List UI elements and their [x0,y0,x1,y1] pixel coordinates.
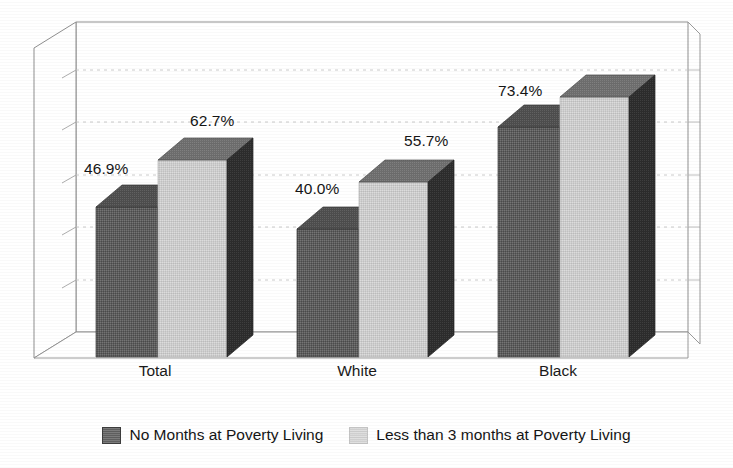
bar-side [428,160,454,357]
legend-label-no-months: No Months at Poverty Living [129,426,323,444]
bar-face [359,182,428,357]
value-label-black-series1: 73.4% [498,82,542,100]
category-label-white: White [312,362,402,380]
legend-item-no-months: No Months at Poverty Living [102,426,323,444]
bar-side [227,138,253,357]
bars-layer [0,0,733,468]
legend-label-less-than-3-months: Less than 3 months at Poverty Living [376,426,630,444]
bar-black-series2 [560,75,655,357]
bar-white-series2 [359,160,454,357]
legend-swatch-dark-gray-icon [102,427,121,444]
bar-face [96,207,158,357]
legend-item-less-than-3-months: Less than 3 months at Poverty Living [349,426,630,444]
bar-face [560,97,629,357]
value-label-total-series2: 62.7% [190,112,234,130]
bar-face [158,160,227,357]
bar-face [498,127,560,357]
bar-face [297,229,359,357]
chart-legend: No Months at Poverty Living Less than 3 … [0,418,733,452]
value-label-white-series2: 55.7% [404,132,448,150]
category-label-black: Black [513,362,603,380]
value-label-total-series1: 46.9% [84,160,128,178]
bar-total-series2 [158,138,253,357]
value-label-white-series1: 40.0% [295,180,339,198]
category-label-total: Total [110,362,200,380]
bar-side [629,75,655,357]
legend-swatch-light-gray-icon [349,427,368,444]
chart-container: 46.9% 62.7% 40.0% 55.7% 73.4% Total Whit… [0,0,733,468]
